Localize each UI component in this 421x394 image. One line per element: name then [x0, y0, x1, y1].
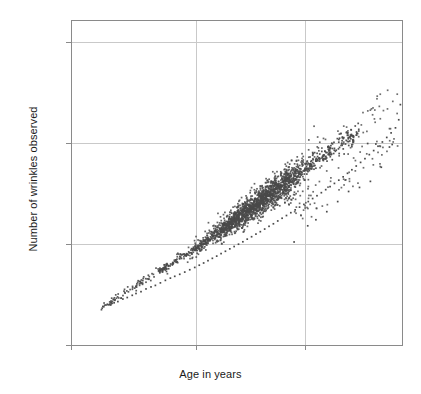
gridlines — [71, 20, 402, 345]
y-axis-title: Number of wrinkles observed — [27, 79, 39, 279]
plot-canvas — [0, 0, 421, 394]
plot-frame — [71, 20, 402, 345]
scatter-chart-figure: Age in years Number of wrinkles observed — [0, 0, 421, 394]
y-axis-title-wrapper: Number of wrinkles observed — [27, 79, 41, 279]
x-axis-title: Age in years — [0, 368, 421, 380]
data-points — [101, 89, 402, 310]
